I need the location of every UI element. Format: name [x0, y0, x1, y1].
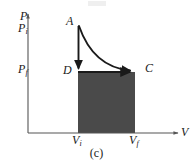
- point-label-c: C: [145, 62, 153, 74]
- point-label-d: D: [63, 64, 72, 76]
- y-tick-label-final-pressure-base: P: [18, 62, 25, 76]
- y-tick-label-final-pressure: Pf: [18, 63, 28, 75]
- x-tick-label-initial-volume: Vi: [72, 134, 82, 146]
- shaded-work-area: [78, 72, 135, 133]
- y-tick-label-initial-pressure-subscript: i: [26, 27, 28, 36]
- figure-caption: (c): [0, 146, 193, 161]
- y-tick-label-final-pressure-subscript: f: [26, 68, 28, 77]
- pv-diagram-canvas: [0, 0, 193, 165]
- axis-label-volume: V: [181, 126, 188, 138]
- x-tick-label-final-volume: Vf: [129, 134, 139, 146]
- point-label-a: A: [66, 15, 73, 27]
- x-tick-label-final-volume-base: V: [129, 133, 136, 147]
- y-tick-label-initial-pressure: Pi: [18, 22, 28, 34]
- x-tick-label-initial-volume-base: V: [72, 133, 79, 147]
- curve-A-to-C: [79, 26, 130, 71]
- y-tick-label-initial-pressure-base: P: [18, 21, 25, 35]
- pv-diagram-figure: P Pi Pf V Vi Vf A D C (c): [0, 0, 193, 165]
